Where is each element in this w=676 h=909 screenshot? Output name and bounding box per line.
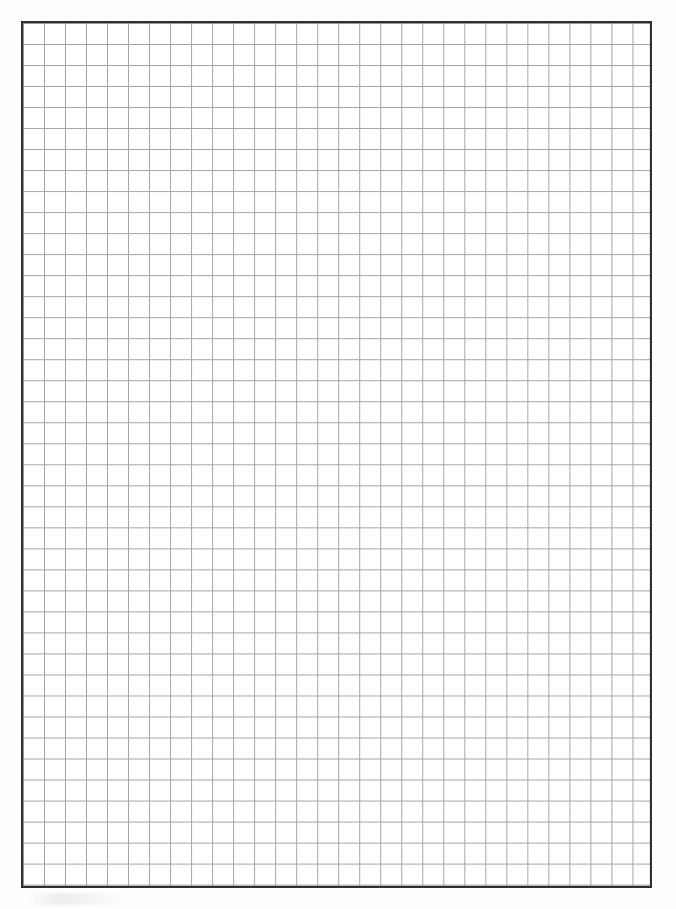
- scan-smudge-artifact: [28, 893, 124, 905]
- scanned-page: [0, 0, 676, 909]
- grid-paper-field: [21, 21, 652, 888]
- grid-inner-edge-shade: [23, 23, 650, 886]
